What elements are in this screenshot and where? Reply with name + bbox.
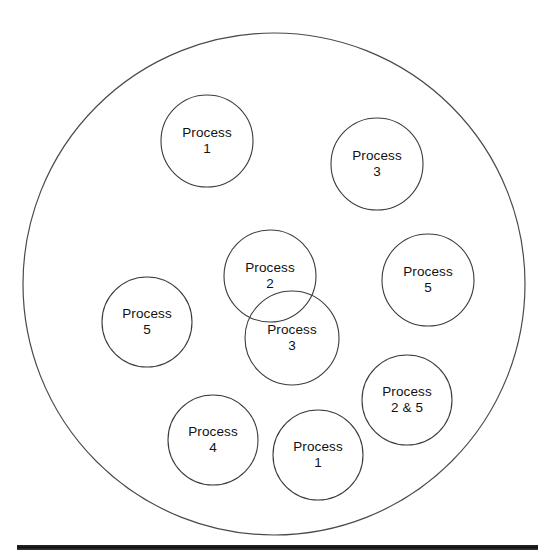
process-circle-process-5-right[interactable]	[382, 234, 474, 326]
shapes-group	[23, 33, 525, 535]
process-circle-process-3-top-right[interactable]	[331, 118, 423, 210]
process-circle-process-3-center[interactable]	[245, 291, 339, 385]
process-circle-process-1-top[interactable]	[161, 95, 253, 187]
process-circle-process-5-left[interactable]	[102, 277, 192, 367]
diagram-vector-layer	[0, 0, 543, 558]
process-circle-process-1-bottom[interactable]	[273, 410, 363, 500]
diagram-canvas: Process1Process3Process2Process3Process5…	[0, 0, 543, 558]
footer-rule	[17, 545, 538, 550]
process-circle-process-2and5-bottom-right[interactable]	[362, 355, 452, 445]
process-circle-process-4-bottom[interactable]	[168, 395, 258, 485]
